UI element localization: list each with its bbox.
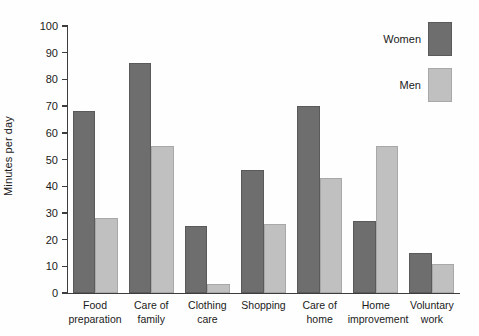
y-tick-label: 90 — [46, 45, 58, 61]
bar-men-shopping — [264, 224, 287, 293]
y-tick-label: 50 — [46, 152, 58, 168]
bar-men-clothing-care — [207, 284, 230, 293]
bar-chart: Minutes per day 0102030405060708090100 F… — [0, 0, 479, 336]
y-tick-label: 80 — [46, 71, 58, 87]
y-tick-label: 70 — [46, 98, 58, 114]
bar-women-home-improvement — [353, 221, 376, 293]
bar-men-voluntary-work — [432, 264, 455, 293]
x-axis-label-care-of-home: Care of home — [292, 299, 348, 326]
x-axis-label-voluntary-work: Voluntary work — [404, 299, 460, 326]
x-axis-label-clothing-care: Clothing care — [179, 299, 235, 326]
bar-men-care-of-home — [320, 178, 343, 293]
bar-women-clothing-care — [185, 226, 208, 293]
y-tick-label: 100 — [40, 18, 58, 34]
plot-area — [67, 26, 460, 293]
x-axis-label-food-preparation: Food preparation — [67, 299, 123, 326]
bar-men-care-of-family — [151, 146, 174, 293]
y-tick-label: 0 — [52, 285, 58, 301]
bar-men-home-improvement — [376, 146, 399, 293]
bar-women-care-of-home — [297, 106, 320, 293]
legend-swatch-men — [428, 68, 452, 102]
x-axis-label-care-of-family: Care of family — [123, 299, 179, 326]
x-axis-label-shopping: Shopping — [235, 299, 291, 313]
y-tick-label: 60 — [46, 125, 58, 141]
x-axis-label-home-improvement: Home improvement — [348, 299, 404, 326]
bar-women-shopping — [241, 170, 264, 293]
legend-item-women: Women — [330, 22, 452, 56]
bar-women-care-of-family — [129, 63, 152, 293]
y-tick-label: 30 — [46, 205, 58, 221]
legend-item-men: Men — [330, 68, 452, 102]
y-tick-label: 20 — [46, 232, 58, 248]
bar-women-voluntary-work — [409, 253, 432, 293]
y-tick-label: 40 — [46, 178, 58, 194]
legend-label-women: Women — [383, 33, 421, 45]
legend-label-men: Men — [400, 79, 421, 91]
legend-swatch-women — [428, 22, 452, 56]
bar-men-food-preparation — [95, 218, 118, 293]
bar-women-food-preparation — [73, 111, 96, 293]
y-axis-title: Minutes per day — [2, 96, 14, 216]
y-tick-label: 10 — [46, 258, 58, 274]
